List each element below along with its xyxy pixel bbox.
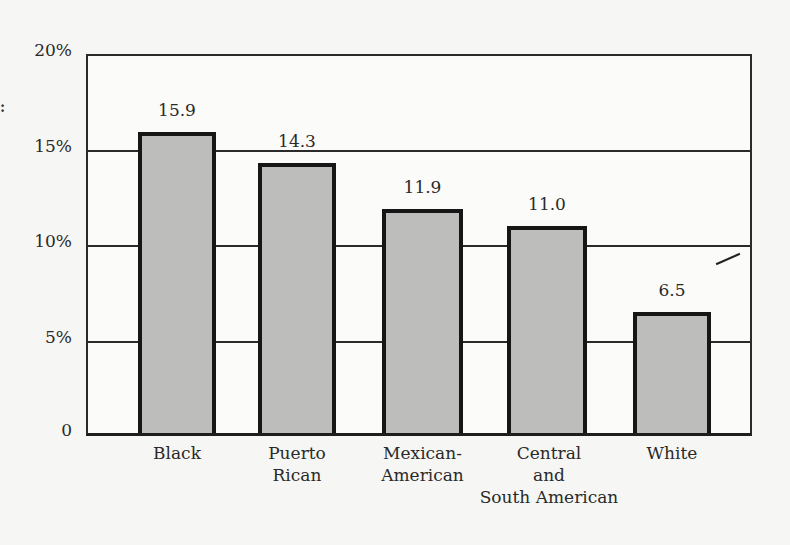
y-tick-label: 20% bbox=[34, 40, 72, 60]
category-label: White bbox=[647, 442, 698, 464]
bar-value-label: 15.9 bbox=[137, 100, 217, 120]
bar-value-label: 6.5 bbox=[632, 280, 712, 300]
y-tick-label: 15% bbox=[34, 136, 72, 156]
category-label-line: Rican bbox=[268, 464, 326, 486]
category-label: Black bbox=[153, 442, 201, 464]
bar-value-label: 11.0 bbox=[507, 194, 587, 214]
bar-value-label: 14.3 bbox=[257, 131, 337, 151]
bar-white bbox=[633, 312, 711, 433]
category-label: PuertoRican bbox=[268, 442, 326, 486]
y-tick-label: 0 bbox=[61, 420, 72, 440]
category-label-line: Black bbox=[153, 442, 201, 464]
category-label-line: Central bbox=[480, 442, 619, 464]
scan-artifact-mark: : bbox=[0, 99, 5, 115]
bar-mexican-american bbox=[382, 209, 463, 433]
bar-puerto-rican bbox=[258, 163, 336, 433]
bar-value-label: 11.9 bbox=[383, 177, 463, 197]
y-tick-label: 10% bbox=[34, 231, 72, 251]
category-label: CentralandSouth American bbox=[480, 442, 619, 508]
bar-central-and-south-american bbox=[507, 226, 587, 433]
category-label: Mexican-American bbox=[381, 442, 464, 486]
category-label-line: Mexican- bbox=[381, 442, 464, 464]
category-label-line: South American bbox=[480, 486, 619, 508]
bar-black bbox=[138, 132, 216, 433]
category-label-line: and bbox=[480, 464, 619, 486]
category-label-line: American bbox=[381, 464, 464, 486]
y-tick-label: 5% bbox=[45, 327, 72, 347]
category-label-line: White bbox=[647, 442, 698, 464]
category-label-line: Puerto bbox=[268, 442, 326, 464]
